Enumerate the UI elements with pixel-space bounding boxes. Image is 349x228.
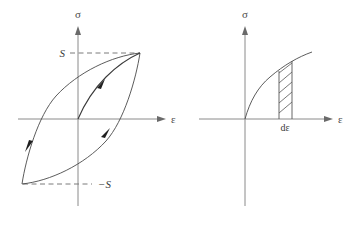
arrow-upper-unloading <box>25 140 33 152</box>
initial-loading-curve <box>78 53 140 119</box>
hatch-line-2 <box>279 92 292 103</box>
left-x-axis-label: ε <box>171 113 176 125</box>
d-epsilon-label: dε <box>280 122 289 133</box>
right-y-axis-label: σ <box>242 8 248 20</box>
left-s-label: S <box>60 47 66 59</box>
hysteresis-loop-panel: σ ε S −S <box>18 8 176 206</box>
right-x-axis <box>199 116 333 122</box>
arrow-lower-loading <box>101 128 110 138</box>
hatch-line-3 <box>279 82 292 93</box>
hatch-line-4 <box>279 72 292 83</box>
stress-strain-figure: σ ε S −S <box>0 0 349 228</box>
right-x-axis-label: ε <box>338 113 343 125</box>
strain-energy-panel: σ ε dε <box>199 8 343 206</box>
stress-strain-curve <box>245 52 312 119</box>
figure-canvas: σ ε S −S <box>0 0 349 228</box>
left-y-axis-label: σ <box>75 8 81 20</box>
right-y-axis <box>242 26 248 206</box>
hatch-line-1 <box>279 102 292 113</box>
d-epsilon-strip <box>279 61 292 119</box>
arrow-initial-loading <box>97 79 105 89</box>
left-negative-s-label: −S <box>98 178 111 190</box>
